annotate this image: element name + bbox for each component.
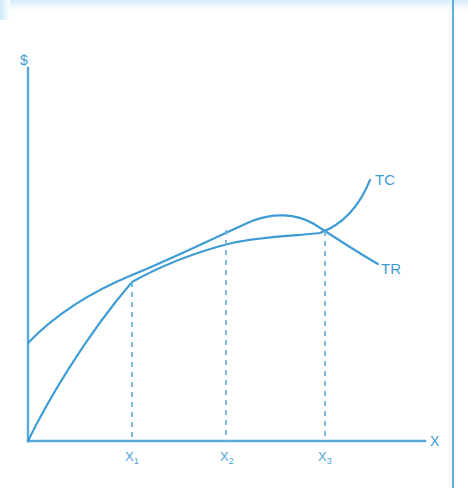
plot-area bbox=[0, 0, 468, 488]
break-even-chart-figure: $ X TC TR X1 X2 X3 bbox=[0, 0, 468, 488]
x-tick-x1-main: X bbox=[125, 449, 134, 464]
total-revenue-series-label: TR bbox=[381, 261, 401, 276]
x-tick-x3-main: X bbox=[318, 449, 327, 464]
total-cost-series-label: TC bbox=[375, 172, 395, 187]
x-tick-x2-sub: 2 bbox=[229, 456, 234, 466]
total-cost-curve bbox=[28, 180, 370, 441]
x-tick-label-x1: X1 bbox=[125, 450, 139, 463]
x-tick-label-x3: X3 bbox=[318, 450, 332, 463]
x-tick-label-x2: X2 bbox=[220, 450, 234, 463]
x-tick-x3-sub: 3 bbox=[327, 456, 332, 466]
x-axis-label: X bbox=[430, 434, 439, 448]
x-tick-x1-sub: 1 bbox=[134, 456, 139, 466]
y-axis-label: $ bbox=[20, 53, 28, 67]
x-tick-x2-main: X bbox=[220, 449, 229, 464]
